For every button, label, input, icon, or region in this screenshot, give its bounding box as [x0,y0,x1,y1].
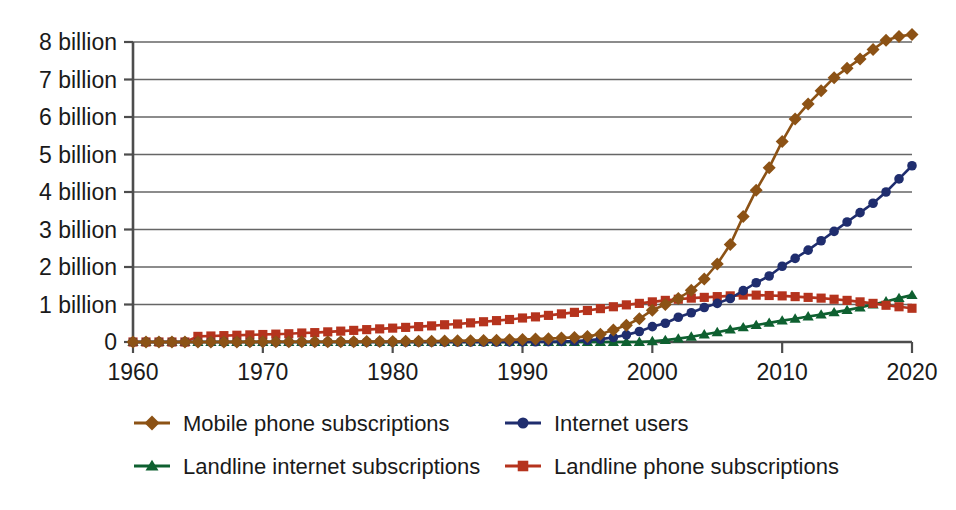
diamond-marker [893,30,906,43]
circle-marker [764,271,774,281]
square-marker [570,308,579,317]
square-marker [414,322,423,331]
diamond-marker [334,335,347,348]
square-marker [804,293,813,302]
circle-marker [790,254,800,264]
diamond-marker [145,416,160,431]
circle-marker [517,417,528,428]
legend-item[interactable]: Landline internet subscriptions [134,454,480,479]
diamond-marker [776,135,789,148]
y-tick-label: 6 billion [39,104,117,130]
square-marker [583,306,592,315]
square-marker [323,327,332,336]
diamond-marker [360,335,373,348]
chart-container: 01 billion2 billion3 billion4 billion5 b… [0,0,956,510]
y-tick-label: 3 billion [39,217,117,243]
square-marker [778,291,787,300]
square-marker [401,323,410,332]
diamond-marker [906,28,919,41]
square-marker [843,296,852,305]
square-marker [479,317,488,326]
circle-marker [661,318,671,328]
y-tick-label: 1 billion [39,292,117,318]
circle-marker [648,322,658,332]
y-tick-label: 0 [104,329,117,355]
square-marker [518,313,527,322]
square-marker [388,324,397,333]
gridlines [133,42,912,305]
square-marker [427,321,436,330]
square-marker [362,325,371,334]
square-marker [349,326,358,335]
circle-marker [738,286,748,296]
square-marker [894,302,903,311]
square-marker [518,461,529,472]
square-marker [609,302,618,311]
chart-legend: Mobile phone subscriptionsInternet users… [134,411,839,479]
circle-marker [907,161,917,171]
square-marker [881,301,890,310]
square-marker [557,309,566,318]
diamond-marker [373,335,386,348]
x-tick-label: 2020 [886,359,937,385]
diamond-marker [516,333,529,346]
circle-marker [842,217,852,227]
square-marker [336,327,345,336]
square-marker [635,299,644,308]
y-tick-label: 4 billion [39,179,117,205]
circle-marker [751,278,761,288]
circle-marker [674,312,684,322]
diamond-marker [386,335,399,348]
square-marker [765,291,774,300]
square-marker [531,312,540,321]
diamond-marker [737,210,750,223]
square-marker [752,291,761,300]
y-axis-tick-labels: 01 billion2 billion3 billion4 billion5 b… [39,29,117,355]
square-marker [907,304,916,313]
circle-marker [816,236,826,246]
diamond-marker [607,324,620,337]
diamond-marker [763,161,776,174]
square-marker [505,315,514,324]
x-tick-label: 2010 [757,359,808,385]
circle-marker [699,303,709,313]
triangle-marker [906,290,917,299]
square-marker [868,299,877,308]
legend-item[interactable]: Landline phone subscriptions [505,454,839,479]
axes [124,42,912,353]
square-marker [596,304,605,313]
square-marker [544,311,553,320]
square-marker [453,319,462,328]
legend-label: Mobile phone subscriptions [183,411,450,436]
circle-marker [635,327,645,337]
square-marker [492,316,501,325]
x-tick-label: 1980 [367,359,418,385]
circle-marker [725,294,735,304]
square-marker [700,293,709,302]
square-marker [466,318,475,327]
circle-marker [868,198,878,208]
square-marker [817,294,826,303]
x-tick-label: 1970 [237,359,288,385]
legend-item[interactable]: Internet users [505,411,689,436]
y-tick-label: 7 billion [39,67,117,93]
x-tick-label: 1990 [497,359,548,385]
circle-marker [894,174,904,184]
legend-item[interactable]: Mobile phone subscriptions [134,411,450,436]
data-series [127,28,919,349]
diamond-marker [750,184,763,197]
square-marker [791,292,800,301]
legend-label: Landline phone subscriptions [554,454,839,479]
legend-label: Landline internet subscriptions [183,454,480,479]
y-tick-label: 5 billion [39,142,117,168]
square-marker [830,295,839,304]
circle-marker [829,227,839,237]
x-tick-label: 2000 [627,359,678,385]
circle-marker [712,299,722,309]
y-tick-label: 2 billion [39,254,117,280]
x-axis-tick-labels: 1960197019801990200020102020 [107,359,937,385]
diamond-marker [620,319,633,332]
y-tick-label: 8 billion [39,29,117,55]
telecom-adoption-line-chart: 01 billion2 billion3 billion4 billion5 b… [0,0,956,510]
legend-label: Internet users [554,411,689,436]
